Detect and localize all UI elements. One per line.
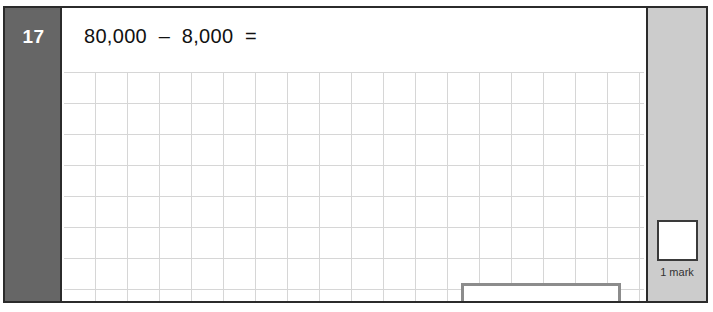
question-number-column: 17 — [5, 8, 62, 301]
mark-label: 1 mark — [648, 266, 706, 278]
working-area: 80,000 – 8,000 = — [64, 8, 644, 301]
mark-column: 1 mark — [646, 8, 706, 301]
question-number: 17 — [5, 26, 62, 48]
squared-grid — [64, 72, 644, 301]
question-frame: 17 80,000 – 8,000 = 1 mark — [3, 6, 708, 303]
answer-box[interactable] — [461, 283, 621, 301]
question-text: 80,000 – 8,000 = — [84, 25, 257, 48]
question-page: 17 80,000 – 8,000 = 1 mark — [0, 0, 713, 312]
mark-score-box[interactable] — [657, 220, 698, 261]
